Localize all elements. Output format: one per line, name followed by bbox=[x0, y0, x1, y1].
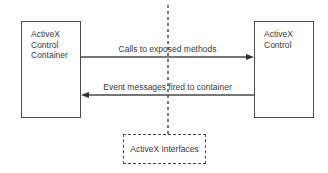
calls-arrow-label: Calls to exposed methods bbox=[81, 44, 254, 54]
container-label-line-1: ActiveX bbox=[31, 29, 68, 40]
events-arrow-label: Event messages fired to container bbox=[81, 82, 254, 92]
container-label-line-3: Container bbox=[31, 50, 68, 61]
container-label: ActiveX Control Container bbox=[31, 29, 68, 61]
activex-interfaces-label: ActiveX Interfaces bbox=[127, 144, 202, 154]
container-label-line-2: Control bbox=[31, 40, 68, 51]
control-label: ActiveX Control bbox=[264, 29, 293, 50]
arrowhead-right-icon bbox=[246, 54, 254, 60]
control-label-line-2: Control bbox=[264, 40, 293, 51]
arrowhead-left-icon bbox=[81, 92, 89, 98]
control-label-line-1: ActiveX bbox=[264, 29, 293, 40]
